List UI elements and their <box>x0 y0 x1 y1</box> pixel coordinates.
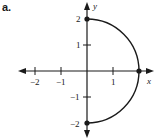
point-0-2 <box>84 16 89 21</box>
y-tick-label: −1 <box>70 92 80 102</box>
x-axis-left-arrow-icon <box>18 68 26 74</box>
y-axis-down-arrow-icon <box>84 130 90 138</box>
x-tick-label: −1 <box>56 77 66 87</box>
x-tick-label: 1 <box>111 77 116 87</box>
y-tick-label: −2 <box>70 119 80 129</box>
x-tick-label: −2 <box>30 77 40 87</box>
x-axis-label: x <box>146 76 151 86</box>
y-axis-up-arrow-icon <box>84 2 90 10</box>
y-axis-label: y <box>92 1 97 11</box>
y-tick-label: 2 <box>76 14 81 24</box>
chart: −2 −1 1 x 2 1 −1 −2 y <box>0 0 156 139</box>
y-tick-label: 1 <box>76 40 81 50</box>
x-axis-right-arrow-icon <box>146 68 154 74</box>
point-2-0 <box>136 68 141 73</box>
point-0-neg2 <box>84 120 89 125</box>
